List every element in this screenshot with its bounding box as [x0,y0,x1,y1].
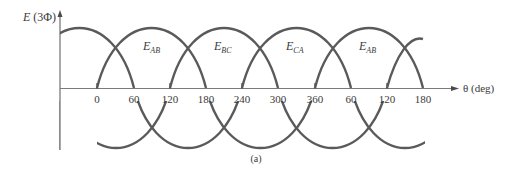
curve-ebc-positive [170,28,278,88]
tick-label: 0 [94,93,100,105]
tick-label: 120 [379,93,396,105]
x-axis-arrow-icon [451,86,459,91]
tick-label: 300 [270,93,287,105]
tick-label: 60 [346,93,358,105]
tick-label: 240 [234,93,251,105]
curve-label-eca: ECA [285,39,304,55]
tick-label: 360 [307,93,324,105]
tick-label: 120 [162,93,179,105]
x-tick-labels: 0 60 120 180 240 300 360 60 120 180 [94,93,432,105]
curve-label-ebc: EBC [213,39,232,55]
curve-neg-4 [278,88,387,148]
x-axis-label: θ (deg) [463,82,495,95]
y-axis-arrow-icon [58,10,63,17]
three-phase-waveform-diagram: E(3Φ) θ (deg) 0 60 120 180 240 300 360 6… [0,0,509,180]
curve-eca-positive [242,28,351,88]
tick-label: 60 [129,93,141,105]
curve-prev-positive [25,28,134,88]
negative-half-cycles [62,88,459,148]
curve-neg-3 [206,88,315,148]
curve-next-positive [387,38,423,88]
x-axis [60,86,459,91]
figure-caption: (a) [250,153,261,165]
curve-eab-positive [97,28,206,88]
curve-label-eab-2: EAB [358,39,376,55]
y-axis-label: E(3Φ) [22,10,56,24]
tick-label: 180 [198,93,215,105]
curve-label-eab: EAB [142,39,160,55]
curve-neg-2 [134,88,242,148]
tick-label: 180 [415,93,432,105]
curve-eab2-positive [315,28,423,88]
positive-half-cycles [25,28,423,88]
